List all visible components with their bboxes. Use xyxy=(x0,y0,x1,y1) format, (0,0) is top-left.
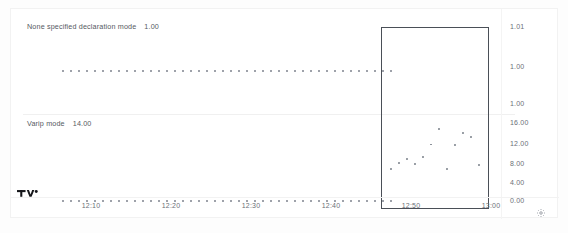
legend-label-varip-mode: Varip mode xyxy=(27,119,65,128)
time-tick-1220: 12:20 xyxy=(162,202,181,209)
data-point xyxy=(286,70,288,72)
price-tick-0: 1.01 xyxy=(510,23,524,30)
gear-icon[interactable] xyxy=(536,204,546,214)
time-tick-1250: 12:50 xyxy=(402,202,421,209)
data-point xyxy=(94,70,96,72)
data-point xyxy=(350,70,352,72)
time-axis[interactable]: 12:10 12:20 12:30 12:40 12:50 13:00 xyxy=(11,197,559,217)
legend-value-none-specified-declaration-mode: 1.00 xyxy=(144,22,159,31)
price-tick-5: 8.00 xyxy=(510,160,524,167)
plot-area[interactable]: None specified declaration mode1.00 Vari… xyxy=(23,19,515,209)
data-point xyxy=(158,70,160,72)
data-point xyxy=(182,70,184,72)
data-point xyxy=(334,70,336,72)
data-point xyxy=(374,70,376,72)
data-point xyxy=(198,70,200,72)
data-point xyxy=(134,70,136,72)
data-point xyxy=(318,70,320,72)
price-tick-4: 12.00 xyxy=(510,140,529,147)
data-point xyxy=(238,70,240,72)
data-point xyxy=(262,70,264,72)
legend-lower-pane[interactable]: Varip mode14.00 xyxy=(27,119,91,128)
legend-value-varip-mode: 14.00 xyxy=(73,119,92,128)
price-tick-2: 1.00 xyxy=(510,100,524,107)
data-point xyxy=(102,70,104,72)
legend-upper-pane[interactable]: None specified declaration mode1.00 xyxy=(27,22,159,31)
chart-screenshot: None specified declaration mode1.00 Vari… xyxy=(0,0,568,233)
data-point xyxy=(366,70,368,72)
data-point xyxy=(278,70,280,72)
data-point xyxy=(342,70,344,72)
price-axis[interactable]: 1.01 1.00 1.00 16.00 12.00 8.00 4.00 0.0… xyxy=(501,9,557,219)
data-point xyxy=(142,70,144,72)
data-point xyxy=(222,70,224,72)
data-point xyxy=(174,70,176,72)
price-tick-1: 1.00 xyxy=(510,63,524,70)
data-point xyxy=(302,70,304,72)
data-point xyxy=(294,70,296,72)
data-point xyxy=(166,70,168,72)
data-point xyxy=(86,70,88,72)
data-point xyxy=(70,70,72,72)
legend-label-none-specified-declaration-mode: None specified declaration mode xyxy=(27,22,136,31)
data-point xyxy=(190,70,192,72)
price-tick-6: 4.00 xyxy=(510,179,524,186)
data-point xyxy=(118,70,120,72)
data-point xyxy=(246,70,248,72)
price-tick-3: 16.00 xyxy=(510,119,529,126)
time-tick-1210: 12:10 xyxy=(82,202,101,209)
data-point xyxy=(270,70,272,72)
data-point xyxy=(326,70,328,72)
time-tick-1300: 13:00 xyxy=(482,202,501,209)
data-point xyxy=(310,70,312,72)
time-tick-1240: 12:40 xyxy=(322,202,341,209)
chart-widget: None specified declaration mode1.00 Vari… xyxy=(10,8,558,218)
data-point xyxy=(126,70,128,72)
data-point xyxy=(230,70,232,72)
data-point xyxy=(358,70,360,72)
data-point xyxy=(62,70,64,72)
data-point xyxy=(254,70,256,72)
tradingview-logo[interactable] xyxy=(17,184,39,195)
data-point xyxy=(110,70,112,72)
data-point xyxy=(214,70,216,72)
data-point xyxy=(206,70,208,72)
data-point xyxy=(78,70,80,72)
time-tick-1230: 12:30 xyxy=(242,202,261,209)
data-point xyxy=(150,70,152,72)
drag-zoom-selection-rectangle[interactable] xyxy=(381,27,489,209)
